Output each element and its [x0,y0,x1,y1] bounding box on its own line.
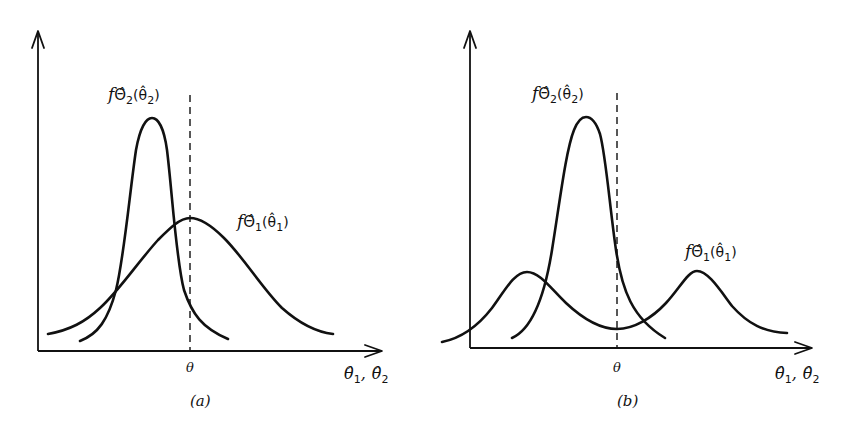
panel-a-x-axis-label: θ̂1,θ̂2 [344,366,388,385]
label-cap: Θ̂ [691,243,703,261]
panel-a [32,31,382,357]
axis-label-sep: , [792,364,797,383]
figure-canvas [0,0,847,429]
label-close: ) [154,87,159,103]
panel-b-curve-theta2 [512,117,665,338]
panel-a-label-theta2-density: fΘ̂2(θ̂2) [108,86,160,106]
axis-label-second: θ̂ [803,364,813,383]
panel-b-x-axis-label: θ̂1,θ̂2 [775,366,819,385]
label-close: ) [283,214,288,230]
axis-label-first: θ̂ [344,364,354,383]
axis-label-first-sub: 1 [354,373,361,386]
label-cap: Θ̂ [538,85,550,103]
axis-label-second: θ̂ [372,364,382,383]
axis-label-first-sub: 1 [785,373,792,386]
axis-label-sep: , [361,364,366,383]
panel-b-label-theta2-density: fΘ̂2(θ̂2) [532,85,584,105]
panel-a-true-value-label: θ [186,361,194,374]
label-arg: (θ̂ [557,86,571,102]
panel-b-label-theta1-density: fΘ̂1(θ̂1) [685,243,737,263]
label-arg: (θ̂ [262,214,276,230]
label-cap: Θ̂ [114,86,126,104]
panel-b-true-value-label: θ [613,361,621,374]
label-close: ) [731,244,736,260]
axis-label-second-sub: 2 [812,373,819,386]
label-cap: Θ̂ [243,213,255,231]
panel-b [442,31,812,354]
label-arg: (θ̂ [710,244,724,260]
panel-a-label-theta1-density: fΘ̂1(θ̂1) [237,213,289,233]
panel-a-caption: (a) [190,394,211,409]
axis-label-first: θ̂ [775,364,785,383]
panel-b-curve-theta1 [442,271,787,342]
panel-b-caption: (b) [617,394,638,409]
axis-label-second-sub: 2 [381,373,388,386]
label-close: ) [578,86,583,102]
label-arg: (θ̂ [133,87,147,103]
